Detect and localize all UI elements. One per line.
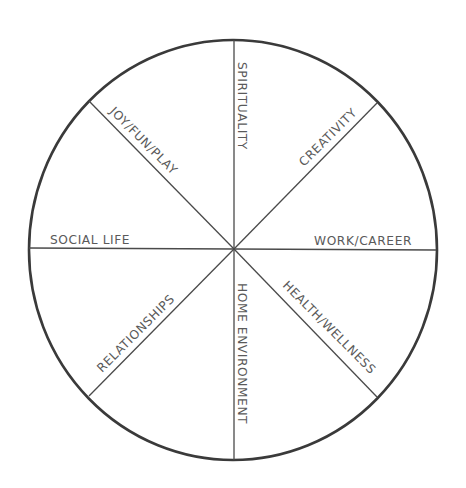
spoke-diagonal-sw: [89, 249, 234, 396]
spoke-diagonal-se: [234, 249, 377, 397]
segment-label-social-life: SOCIAL LIFE: [50, 233, 130, 247]
segment-label-spirituality: SPIRITUALITY: [235, 62, 249, 150]
wheel-spokes: [29, 40, 436, 460]
segment-label-relationships: RELATIONSHIPS: [94, 292, 177, 375]
spoke-horizontal-left: [29, 248, 234, 249]
spoke-horizontal-right: [234, 249, 436, 250]
segment-label-home-environment: HOME ENVIRONMENT: [235, 283, 249, 424]
segment-label-creativity: CREATIVITY: [296, 106, 360, 170]
spoke-diagonal-ne: [234, 103, 377, 249]
wheel-of-life-diagram: SPIRITUALITY CREATIVITY WORK/CAREER HEAL…: [0, 0, 466, 488]
segment-label-health-wellness: HEALTH/WELLNESS: [280, 278, 379, 377]
segment-label-joy-fun-play: JOY/FUN/PLAY: [106, 104, 180, 178]
spoke-diagonal-nw: [89, 101, 234, 249]
segment-label-work-career: WORK/CAREER: [314, 234, 412, 248]
